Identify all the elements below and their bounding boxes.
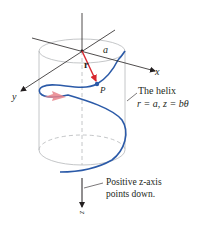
direction-arrow-icon xyxy=(44,91,66,101)
point-label: P xyxy=(99,85,106,95)
helix-equation-r: r = a, xyxy=(137,98,160,109)
helix-curve xyxy=(39,60,126,172)
helix-title: The helix xyxy=(138,85,176,96)
x-axis xyxy=(32,38,155,71)
helix-equation-z: z = bθ xyxy=(162,98,189,109)
x-axis-label-text: x xyxy=(154,66,160,77)
helix-diagram: a r P x y z The helix r = a, z = bθ Posi… xyxy=(0,0,205,227)
z-note-line1: Positive z-axis xyxy=(106,177,162,187)
radius-label: a xyxy=(103,44,108,55)
vector-label: r xyxy=(84,59,89,70)
y-axis-label: y xyxy=(11,91,17,102)
z-axis-label: z xyxy=(78,210,87,215)
helix-callout-line xyxy=(127,93,137,101)
z-note-line2: points down. xyxy=(106,189,155,199)
helix-top-entry xyxy=(118,51,125,60)
z-note-callout-line xyxy=(84,183,103,188)
point-p xyxy=(95,82,99,86)
